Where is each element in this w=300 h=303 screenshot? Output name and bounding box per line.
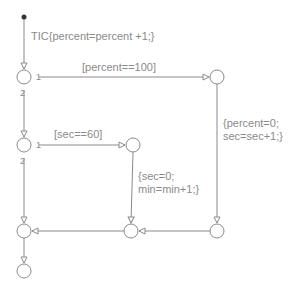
- junction-j7[interactable]: [210, 224, 224, 238]
- junction-j4[interactable]: [126, 138, 140, 152]
- action-sec-label-1: {sec=0;: [138, 170, 174, 183]
- start-dot: [22, 15, 27, 20]
- priority-j1-second: 2: [20, 88, 25, 98]
- junction-j1[interactable]: [17, 70, 31, 84]
- junction-j3[interactable]: [17, 138, 31, 152]
- condition-percent-label: [percent==100]: [82, 61, 156, 74]
- junction-j8[interactable]: [17, 264, 31, 278]
- priority-j3-second: 2: [20, 156, 25, 166]
- entry-action-label: TIC{percent=percent +1;}: [31, 30, 155, 43]
- junction-j6[interactable]: [124, 224, 138, 238]
- junction-j5[interactable]: [17, 224, 31, 238]
- priority-j3-first: 1: [36, 140, 41, 150]
- action-percent-label-2: sec=sec+1;}: [223, 130, 283, 143]
- action-sec-label-2: min=min+1;}: [138, 183, 199, 196]
- transition-sec-reset[interactable]: [131, 152, 133, 223]
- condition-sec-label: [sec==60]: [54, 128, 102, 141]
- priority-j1-first: 1: [36, 72, 41, 82]
- action-percent-label-1: {percent=0;: [223, 117, 279, 130]
- flowchart-canvas: [0, 0, 300, 303]
- junction-j2[interactable]: [210, 70, 224, 84]
